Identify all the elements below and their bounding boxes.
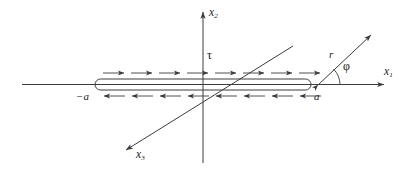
axis-label-x2: x2: [209, 7, 218, 19]
endpoint-label-negative-a: −a: [76, 91, 89, 102]
phi-angle-arc: [334, 69, 340, 84]
phi-label: φ: [343, 60, 350, 72]
endpoint-label-positive-a: a: [314, 91, 320, 102]
tau-label: τ: [207, 49, 212, 61]
physics-diagram-figure: x2 x1 x3 τ φ r −a a: [0, 0, 407, 172]
axis-label-x3: x3: [136, 149, 145, 161]
diagram-canvas: [0, 0, 407, 172]
axis-label-x1: x1: [384, 66, 393, 78]
radius-label-r: r: [329, 49, 333, 60]
